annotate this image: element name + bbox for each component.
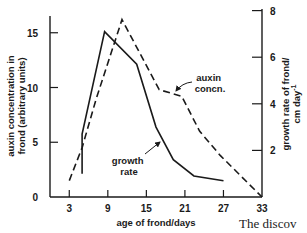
page-body-text-fragment: The discov — [239, 216, 296, 232]
x-tick-label: 3 — [66, 203, 72, 214]
auxin-growth-chart: 051015 2468 3915212733 auxin concentrati… — [0, 0, 307, 233]
x-axis-title: age of frond/days — [116, 217, 195, 228]
right-axis-ticks: 2468 — [252, 6, 276, 157]
right-tick-label: 2 — [270, 145, 276, 156]
right-tick-label: 8 — [270, 6, 276, 17]
x-axis-ticks: 3915212733 — [66, 190, 268, 214]
left-axis-ticks: 051015 — [27, 28, 58, 203]
left-axis-title-line2: frond (arbitrary units) — [16, 57, 27, 154]
left-tick-label: 5 — [32, 137, 38, 148]
right-axis-title-line2: cm day-1 — [290, 84, 302, 123]
left-tick-label: 10 — [27, 83, 39, 94]
x-tick-label: 33 — [256, 203, 268, 214]
x-tick-label: 27 — [218, 203, 230, 214]
x-tick-label: 15 — [141, 203, 153, 214]
auxin-concentration-line — [69, 20, 262, 197]
x-tick-label: 9 — [105, 203, 111, 214]
left-tick-label: 15 — [27, 28, 39, 39]
right-tick-label: 6 — [270, 52, 276, 63]
auxin-annotation-arrow — [176, 82, 192, 91]
growth-annotation-label: growth rate — [112, 155, 146, 177]
right-tick-label: 4 — [270, 99, 276, 110]
right-axis-title: growth rate of frond/ — [280, 57, 291, 150]
x-tick-label: 21 — [179, 203, 191, 214]
left-axis-title: auxin concentration in — [5, 55, 16, 157]
growth-rate-line — [82, 32, 223, 181]
left-tick-label: 0 — [32, 192, 38, 203]
growth-annotation-arrow — [145, 142, 160, 154]
auxin-annotation-label: auxin concn. — [195, 72, 226, 94]
